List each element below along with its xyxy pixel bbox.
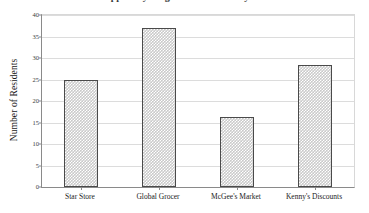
bar[interactable] [220, 117, 254, 187]
bar-chart-figure: Shoppers by Neighborhood Grocery Store N… [0, 0, 369, 213]
bar-slot [276, 15, 354, 187]
bar-slot [198, 15, 276, 187]
bar[interactable] [64, 80, 98, 188]
y-tick-label: 30 [33, 55, 40, 62]
bar-slot [120, 15, 198, 187]
x-tick-mark [81, 187, 82, 190]
y-tick-label: 0 [36, 184, 39, 191]
bar-slot [42, 15, 120, 187]
x-tick-label: McGee's Market [211, 192, 261, 202]
x-tick-label: Kenny's Discounts [286, 192, 342, 202]
x-tick-mark [315, 187, 316, 190]
y-axis-title: Number of Residents [7, 40, 21, 160]
y-tick-label: 15 [33, 119, 40, 126]
x-axis-labels: Star StoreGlobal GrocerMcGee's MarketKen… [41, 192, 355, 208]
x-tick-mark [237, 187, 238, 190]
x-tick-label: Star Store [65, 192, 95, 202]
y-axis-title-label: Number of Residents [9, 59, 19, 142]
y-tick-label: 35 [33, 33, 40, 40]
bar[interactable] [142, 28, 176, 187]
plot-area: 0510152025303540 [41, 14, 355, 188]
x-tick-mark [159, 187, 160, 190]
bars [42, 15, 354, 187]
y-tick-label: 40 [33, 12, 40, 19]
y-tick-label: 25 [33, 76, 40, 83]
chart-title: Shoppers by Neighborhood Grocery Store [0, 0, 369, 2]
y-tick-label: 20 [33, 98, 40, 105]
bar[interactable] [298, 65, 332, 187]
y-tick-label: 10 [33, 141, 40, 148]
x-tick-label: Global Grocer [136, 192, 179, 202]
y-tick-label: 5 [36, 162, 39, 169]
